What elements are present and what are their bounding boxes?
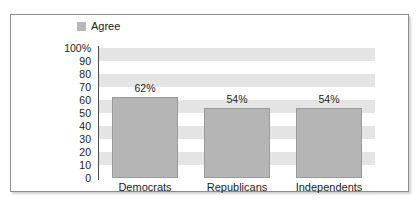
legend-square-icon	[77, 22, 86, 31]
bar-group: 62%	[112, 48, 178, 178]
x-axis-category-label: Independents	[283, 181, 375, 193]
bar-group: 54%	[296, 48, 362, 178]
y-axis-tick-label: 60	[79, 95, 91, 105]
chart-legend: Agree	[77, 19, 120, 33]
bar[interactable]	[204, 108, 270, 178]
bar-value-label: 54%	[296, 94, 362, 105]
y-axis-tick-label: 10	[79, 160, 91, 170]
y-axis-tick-label: 90	[79, 56, 91, 66]
chart-figure: Agree 100%9080706050403020100 62%54%54% …	[10, 14, 409, 192]
y-axis-tick-label: 40	[79, 121, 91, 131]
y-axis-tick-label: 0	[85, 173, 91, 183]
y-axis-tick-label: 80	[79, 69, 91, 79]
y-axis-tick-label: 70	[79, 82, 91, 92]
y-axis-tick-labels: 100%9080706050403020100	[33, 48, 95, 178]
bar-group: 54%	[204, 48, 270, 178]
y-axis-tick-label: 30	[79, 134, 91, 144]
x-axis-category-label: Republicans	[191, 181, 283, 193]
x-axis-category-labels: DemocratsRepublicansIndependents	[99, 181, 375, 195]
bar-value-label: 54%	[204, 94, 270, 105]
bar[interactable]	[296, 108, 362, 178]
y-axis-tick-label: 50	[79, 108, 91, 118]
y-axis-tick-label: 100%	[64, 43, 91, 53]
bar[interactable]	[112, 97, 178, 178]
legend-item-label: Agree	[91, 21, 120, 32]
plot-area: 62%54%54%	[99, 48, 375, 178]
y-axis-tick-label: 20	[79, 147, 91, 157]
bar-value-label: 62%	[112, 83, 178, 94]
x-axis-category-label: Democrats	[99, 181, 191, 193]
